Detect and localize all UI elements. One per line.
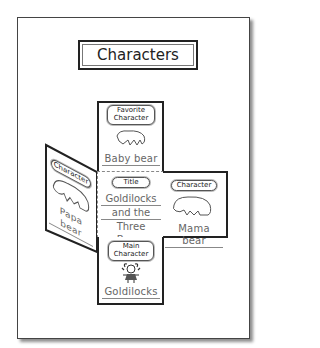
label-favorite-character: Favorite Character (107, 105, 155, 125)
title-box: Characters (78, 40, 198, 70)
panel-main-character: Main Character Goldilocks (97, 237, 164, 305)
bear-icon (114, 128, 148, 148)
label-title: Title (112, 177, 150, 188)
character-name-baby-bear: Baby bear (102, 153, 160, 166)
character-name-goldilocks: Goldilocks (102, 286, 160, 299)
panel-favorite-character: Favorite Character Baby bear (97, 101, 164, 172)
page-title: Characters (82, 44, 194, 66)
label-character: Character (171, 180, 217, 191)
bear-icon (170, 193, 214, 219)
character-name-mama-bear: Mama bear (165, 223, 223, 248)
panel-title: Title Goldilocks and the Three Bears (97, 171, 164, 238)
panel-character-right: Character Mama bear (163, 171, 228, 238)
girl-icon (119, 262, 143, 284)
label-main-character: Main Character (108, 241, 154, 261)
